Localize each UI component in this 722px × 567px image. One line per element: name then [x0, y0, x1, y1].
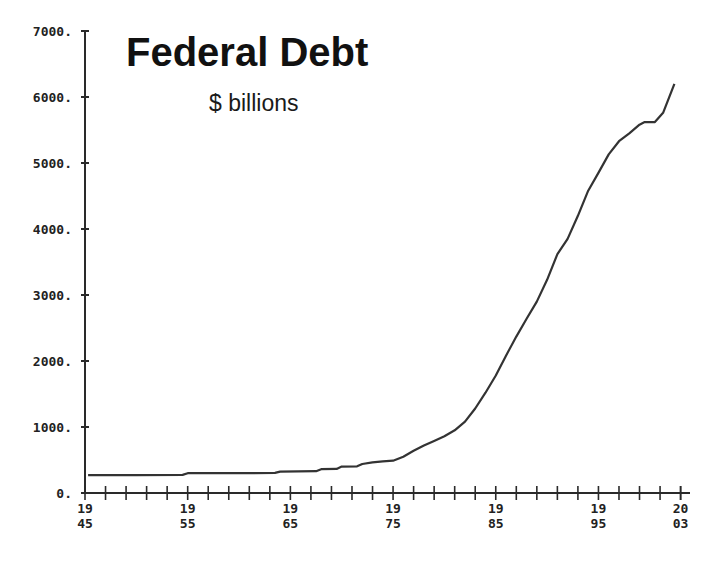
y-tick-label: 6000. [33, 90, 72, 105]
y-tick-label: 0. [56, 486, 72, 501]
y-tick-label: 2000. [33, 354, 72, 369]
x-tick-label-top: 20 [673, 501, 689, 516]
y-axis: 0.1000.2000.3000.4000.5000.6000.7000. [33, 24, 89, 501]
x-tick-label-bottom: 65 [283, 516, 299, 531]
series-layer [88, 84, 674, 475]
x-tick-label-bottom: 85 [488, 516, 504, 531]
x-tick-label-bottom: 03 [673, 516, 689, 531]
y-tick-label: 3000. [33, 288, 72, 303]
y-tick-label: 1000. [33, 420, 72, 435]
x-tick-label-bottom: 45 [77, 516, 93, 531]
x-axis: 1945195519651975198519952003 [77, 486, 690, 531]
x-tick-label-bottom: 75 [385, 516, 401, 531]
x-tick-label-top: 19 [591, 501, 607, 516]
x-tick-label-top: 19 [77, 501, 93, 516]
debt-line [88, 84, 674, 475]
x-tick-label-top: 19 [488, 501, 504, 516]
y-tick-label: 7000. [33, 24, 72, 39]
x-tick-label-top: 19 [180, 501, 196, 516]
x-tick-label-top: 19 [385, 501, 401, 516]
x-tick-label-bottom: 55 [180, 516, 196, 531]
x-tick-label-top: 19 [283, 501, 299, 516]
y-tick-label: 4000. [33, 222, 72, 237]
x-tick-label-bottom: 95 [591, 516, 607, 531]
line-chart: 0.1000.2000.3000.4000.5000.6000.7000. 19… [0, 0, 722, 567]
y-tick-label: 5000. [33, 156, 72, 171]
